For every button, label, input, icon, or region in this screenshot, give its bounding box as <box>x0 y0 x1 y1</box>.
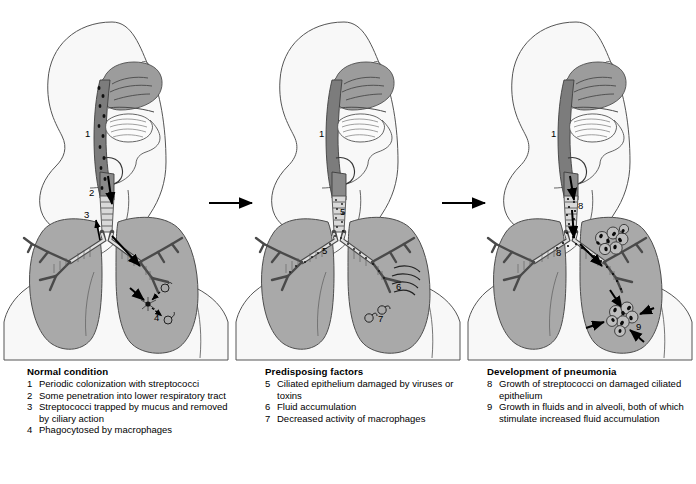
caption-1-item-1: 1 Periodic colonization with streptococc… <box>27 378 237 389</box>
caption-2-item-2-number: 6 <box>265 401 274 412</box>
caption-2-list: 5 Ciliated epithelium damaged by viruses… <box>265 378 470 424</box>
caption-1-item-4: 4 Phagocytosed by macrophages <box>27 424 237 435</box>
svg-text:6: 6 <box>396 281 401 292</box>
caption-1-item-1-text: Periodic colonization with streptococci <box>39 378 237 389</box>
caption-2-item-1-text: Ciliated epithelium damaged by viruses o… <box>277 378 470 401</box>
right-lung <box>348 217 430 353</box>
caption-2-item-3-number: 7 <box>265 413 274 424</box>
svg-text:2: 2 <box>129 253 134 264</box>
right-lung <box>116 217 198 353</box>
svg-text:1: 1 <box>319 128 324 139</box>
svg-text:8: 8 <box>578 200 583 211</box>
caption-2-item-2: 6 Fluid accumulation <box>265 401 470 412</box>
caption-1-item-2: 2 Some penetration into lower respirator… <box>27 390 237 401</box>
svg-text:4: 4 <box>154 312 159 323</box>
svg-text:9: 9 <box>636 321 641 332</box>
caption-1-item-1-number: 1 <box>27 378 36 389</box>
caption-2-item-2-text: Fluid accumulation <box>277 401 470 412</box>
caption-3-item-2-number: 9 <box>487 401 496 412</box>
svg-text:7: 7 <box>378 313 383 324</box>
caption-2-item-1-number: 5 <box>265 378 274 389</box>
svg-text:5: 5 <box>322 245 327 256</box>
caption-3-list: 8 Growth of streptococci on damaged cili… <box>487 378 692 424</box>
caption-normal-condition: Normal condition 1 Periodic colonization… <box>27 366 237 435</box>
svg-text:3: 3 <box>84 209 89 220</box>
svg-text:1: 1 <box>551 128 556 139</box>
panel-development-of-pneumonia: 1 8 8 9 <box>468 22 692 360</box>
caption-1-list: 1 Periodic colonization with streptococc… <box>27 378 237 435</box>
left-lung <box>30 219 103 349</box>
svg-text:2: 2 <box>89 187 94 198</box>
caption-1-item-2-text: Some penetration into lower respiratory … <box>39 390 237 401</box>
panel-normal-condition: 1 2 3 2 4 <box>4 22 228 360</box>
caption-3-item-1: 8 Growth of streptococci on damaged cili… <box>487 378 692 401</box>
caption-2-heading: Predisposing factors <box>265 366 470 377</box>
caption-3-heading: Development of pneumonia <box>487 366 692 377</box>
left-lung <box>262 219 335 349</box>
caption-3-item-2-text: Growth in fluids and in alveoli, both of… <box>499 401 692 424</box>
caption-3-item-1-number: 8 <box>487 378 496 389</box>
caption-1-item-3-text: Streptococci trapped by mucus and remove… <box>39 401 237 424</box>
svg-text:5: 5 <box>340 206 345 217</box>
svg-text:8: 8 <box>556 247 561 258</box>
caption-predisposing-factors: Predisposing factors 5 Ciliated epitheli… <box>265 366 470 424</box>
caption-1-item-4-number: 4 <box>27 424 36 435</box>
panel-predisposing-factors: 1 5 5 6 7 <box>236 22 460 360</box>
caption-2-item-1: 5 Ciliated epithelium damaged by viruses… <box>265 378 470 401</box>
caption-2-item-3: 7 Decreased activity of macrophages <box>265 413 470 424</box>
caption-development-of-pneumonia: Development of pneumonia 8 Growth of str… <box>487 366 692 424</box>
caption-3-item-2: 9 Growth in fluids and in alveoli, both … <box>487 401 692 424</box>
caption-1-item-4-text: Phagocytosed by macrophages <box>39 424 237 435</box>
left-lung <box>494 219 567 349</box>
caption-1-item-3-number: 3 <box>27 401 36 412</box>
caption-1-item-2-number: 2 <box>27 390 36 401</box>
caption-1-heading: Normal condition <box>27 366 237 377</box>
caption-1-item-3: 3 Streptococci trapped by mucus and remo… <box>27 401 237 424</box>
caption-3-item-1-text: Growth of streptococci on damaged ciliat… <box>499 378 692 401</box>
pneumonia-diagram: 1 2 3 2 4 <box>0 0 696 484</box>
caption-2-item-3-text: Decreased activity of macrophages <box>277 413 470 424</box>
svg-text:1: 1 <box>85 128 90 139</box>
